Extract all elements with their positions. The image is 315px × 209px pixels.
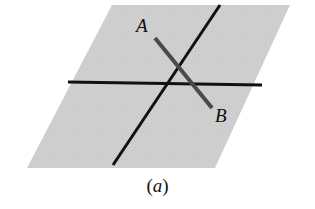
shaded-plane-parallelogram bbox=[27, 5, 290, 168]
point-label-a: A bbox=[136, 16, 148, 35]
caption-close-paren: ) bbox=[162, 175, 168, 196]
figure-container: A B (a) bbox=[0, 0, 315, 209]
caption-letter: a bbox=[153, 175, 163, 196]
figure-caption: (a) bbox=[0, 176, 315, 195]
point-label-b: B bbox=[215, 106, 227, 125]
